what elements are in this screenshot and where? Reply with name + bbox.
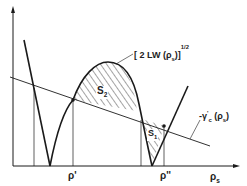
tick-label-rho-prime: ρ'	[68, 171, 77, 181]
area-label-s1: S1	[147, 129, 158, 141]
y-axis	[11, 6, 15, 166]
gamma-label-prime: '	[207, 110, 208, 116]
diagram-canvas	[0, 0, 247, 186]
gamma-label-close: )	[226, 111, 229, 121]
x-axis-label: ρs	[210, 172, 220, 185]
tick-label-rho-double-prime: ρ''	[160, 171, 171, 181]
s1-sub: 1	[154, 134, 157, 140]
intersection-point-rho-double-prime	[162, 124, 166, 128]
left-branch-curve	[24, 40, 50, 166]
intersection-point-rho-prime	[71, 98, 75, 102]
s2-main: S	[97, 85, 104, 96]
arch-label-prefix: [ 2 LW (	[134, 50, 166, 60]
gamma-c-label: -γ'c (ρs)	[199, 111, 229, 124]
arch-curve-label: [ 2 LW (ρs)]1/2	[134, 50, 189, 63]
area-label-s2: S2	[96, 86, 108, 99]
arch-label-suffix: )]	[175, 50, 181, 60]
gamma-label-prefix: -γ	[199, 111, 207, 121]
x-axis	[13, 164, 240, 168]
arch-label-exponent: 1/2	[181, 44, 189, 50]
arch-label-leader	[116, 54, 133, 64]
s2-sub: 2	[104, 91, 108, 98]
x-axis-label-sub: s	[216, 177, 220, 184]
